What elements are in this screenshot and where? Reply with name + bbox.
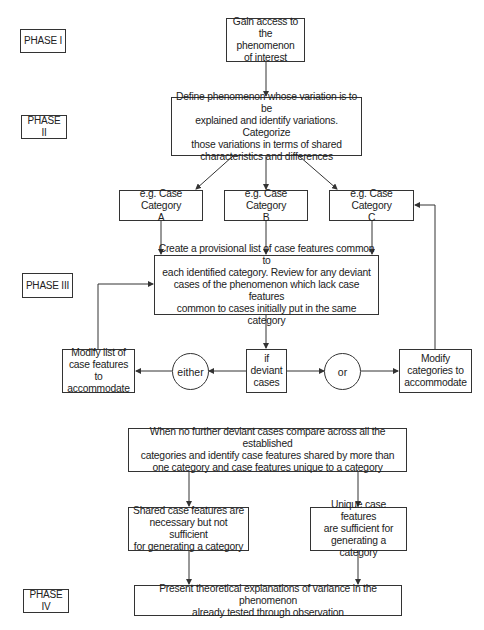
phase-1-label: PHASE I: [20, 29, 66, 53]
phase-4-label: PHASE IV: [23, 589, 69, 613]
node-category-a: e.g. Case Category A: [119, 190, 203, 221]
node-category-b: e.g. Case Category B: [224, 190, 308, 221]
node-modify-list: Modify list of case features to accommod…: [62, 349, 135, 393]
node-shared-features: Shared case features are necessary but n…: [128, 507, 249, 551]
node-provisional-list: Create a provisional list of case featur…: [154, 255, 379, 315]
node-unique-features: Unique case features are sufficient for …: [310, 507, 407, 551]
node-present-explanations: Present theoretical explanations of vari…: [134, 585, 402, 616]
node-gain-access: Gain access to the phenomenon of interes…: [226, 18, 305, 62]
node-modify-categories: Modify categories to accommodate: [399, 349, 472, 393]
phase-2-label: PHASE II: [21, 115, 67, 139]
node-either: either: [172, 353, 209, 390]
phase-3-label: PHASE III: [22, 273, 73, 298]
node-or: or: [324, 353, 361, 390]
node-if-deviant-cases: if deviant cases: [246, 349, 287, 393]
node-category-c: e.g. Case Category C: [329, 190, 414, 221]
node-define-phenomenon: Define phenomenon whose variation is to …: [171, 97, 362, 156]
node-compare-categories: When no further deviant cases compare ac…: [128, 428, 407, 472]
